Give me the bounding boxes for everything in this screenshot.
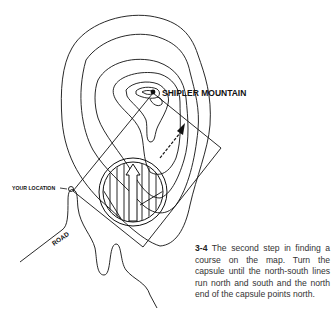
orienting-arrow [126, 164, 140, 221]
peak-marker [151, 90, 156, 95]
peak-label: SHIPLER MOUNTAIN [162, 88, 246, 98]
direction-of-travel-arrow [160, 123, 185, 158]
location-marker [69, 187, 74, 192]
figure-number: 3-4 [195, 243, 207, 253]
figure-caption: 3-4 The second step in finding a course … [195, 243, 330, 301]
road-label: ROAD [51, 230, 71, 247]
location-label: YOUR LOCATION [12, 185, 55, 191]
location-leader-line [60, 188, 67, 189]
figure-caption-text: The second step in finding a course on t… [195, 243, 330, 299]
compass-capsule [99, 150, 167, 230]
